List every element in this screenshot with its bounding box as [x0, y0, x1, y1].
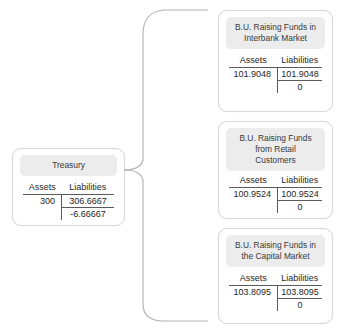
- card-title-line-2: Interbank Market: [230, 33, 321, 44]
- column-header-assets: Assets: [229, 272, 278, 286]
- table-header-row: Assets Liabilities: [229, 272, 322, 286]
- capital-market-t-account: Assets Liabilities 103.8095 103.8095 0: [229, 272, 322, 311]
- capital-market-liabilities-value-1: 103.8095: [278, 286, 322, 299]
- business-unit-card-capital-market-title: B.U. Raising Funds in the Capital Market: [226, 235, 325, 267]
- column-header-liabilities: Liabilities: [278, 174, 322, 188]
- table-row: 101.9048 101.9048: [229, 68, 322, 81]
- table-header-row: Assets Liabilities: [229, 174, 322, 188]
- capital-market-assets-value: 103.8095: [229, 286, 278, 299]
- retail-liabilities-value-1: 100.9524: [278, 188, 322, 201]
- card-title-line-1: B.U. Raising Funds in: [230, 22, 321, 33]
- treasury-card-title: Treasury: [20, 155, 117, 176]
- business-unit-card-capital-market: B.U. Raising Funds in the Capital Market…: [218, 228, 333, 324]
- card-title-line-2: from Retail: [230, 144, 321, 155]
- capital-market-assets-empty: [229, 299, 278, 312]
- card-title-line-1: B.U. Raising Funds in: [230, 240, 321, 251]
- interbank-assets-value: 101.9048: [229, 68, 278, 81]
- interbank-liabilities-value-1: 101.9048: [278, 68, 322, 81]
- table-row: -6.66667: [23, 208, 114, 221]
- column-header-assets: Assets: [229, 54, 278, 68]
- retail-t-account: Assets Liabilities 100.9524 100.9524 0: [229, 174, 322, 213]
- column-header-liabilities: Liabilities: [278, 272, 322, 286]
- retail-assets-value: 100.9524: [229, 188, 278, 201]
- interbank-assets-empty: [229, 81, 278, 94]
- column-header-liabilities: Liabilities: [62, 181, 114, 195]
- business-unit-card-interbank-title: B.U. Raising Funds in Interbank Market: [226, 17, 325, 49]
- card-title-line-2: the Capital Market: [230, 251, 321, 262]
- treasury-assets-value: 300: [23, 195, 62, 208]
- treasury-liabilities-value-2: -6.66667: [62, 208, 114, 221]
- brace-upper-path: [124, 10, 208, 170]
- column-header-assets: Assets: [23, 181, 62, 195]
- interbank-t-account: Assets Liabilities 101.9048 101.9048 0: [229, 54, 322, 93]
- table-row: 100.9524 100.9524: [229, 188, 322, 201]
- treasury-title-line-1: Treasury: [24, 160, 113, 171]
- treasury-card: Treasury Assets Liabilities 300 306.6667…: [12, 148, 125, 226]
- column-header-liabilities: Liabilities: [278, 54, 322, 68]
- treasury-liabilities-value-1: 306.6667: [62, 195, 114, 208]
- card-title-line-3: Customers: [230, 155, 321, 166]
- table-header-row: Assets Liabilities: [23, 181, 114, 195]
- table-row: 0: [229, 81, 322, 94]
- table-row: 300 306.6667: [23, 195, 114, 208]
- table-row: 0: [229, 299, 322, 312]
- retail-assets-empty: [229, 201, 278, 214]
- card-title-line-1: B.U. Raising Funds: [230, 133, 321, 144]
- table-header-row: Assets Liabilities: [229, 54, 322, 68]
- curly-brace-connector: [124, 8, 208, 324]
- column-header-assets: Assets: [229, 174, 278, 188]
- treasury-assets-empty: [23, 208, 62, 221]
- capital-market-liabilities-value-2: 0: [278, 299, 322, 312]
- table-row: 103.8095 103.8095: [229, 286, 322, 299]
- treasury-t-account: Assets Liabilities 300 306.6667 -6.66667: [23, 181, 114, 220]
- brace-lower-path: [124, 170, 208, 321]
- retail-liabilities-value-2: 0: [278, 201, 322, 214]
- business-unit-card-retail: B.U. Raising Funds from Retail Customers…: [218, 121, 333, 219]
- interbank-liabilities-value-2: 0: [278, 81, 322, 94]
- business-unit-card-retail-title: B.U. Raising Funds from Retail Customers: [226, 128, 325, 171]
- table-row: 0: [229, 201, 322, 214]
- business-unit-card-interbank: B.U. Raising Funds in Interbank Market A…: [218, 10, 333, 112]
